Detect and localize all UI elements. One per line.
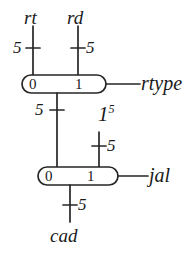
width-label-rd: 5 — [86, 39, 95, 56]
mux-top-port-0: 0 — [29, 77, 37, 92]
select-label-rtype: rtype — [141, 73, 182, 93]
input-label-rt: rt — [24, 8, 37, 27]
circuit-wires-layer — [0, 0, 189, 258]
constant-width: 5 — [109, 102, 115, 116]
mux-top-port-1: 1 — [75, 77, 83, 92]
width-label-mux-bottom-input1: 5 — [107, 137, 116, 154]
width-label-cad: 5 — [78, 196, 87, 213]
constant-one-label: 15 — [98, 104, 115, 125]
select-label-jal: jal — [149, 165, 170, 185]
mux-bottom-port-0: 0 — [45, 169, 53, 184]
width-label-mux-top-output: 5 — [35, 101, 44, 118]
circuit-diagram: rt rd 5 5 0 1 rtype 5 15 5 0 1 jal 5 cad — [0, 0, 189, 258]
width-label-rt: 5 — [13, 39, 22, 56]
input-label-rd: rd — [67, 8, 83, 27]
constant-value: 1 — [98, 102, 109, 126]
output-label-cad: cad — [50, 226, 77, 245]
mux-bottom-port-1: 1 — [87, 169, 95, 184]
